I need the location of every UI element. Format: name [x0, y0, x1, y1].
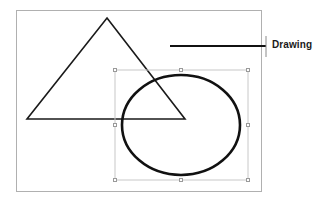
handle-ne[interactable]: [246, 68, 250, 72]
handle-e[interactable]: [246, 123, 250, 127]
screenshot-root: Drawing: [0, 0, 335, 202]
handle-w[interactable]: [113, 123, 117, 127]
handle-sw[interactable]: [113, 178, 117, 182]
handle-nw[interactable]: [113, 68, 117, 72]
drawing-canvas[interactable]: [16, 10, 262, 192]
handle-s[interactable]: [179, 178, 183, 182]
drawing-callout-label: Drawing: [272, 38, 312, 52]
handle-n[interactable]: [179, 68, 183, 72]
handle-se[interactable]: [246, 178, 250, 182]
